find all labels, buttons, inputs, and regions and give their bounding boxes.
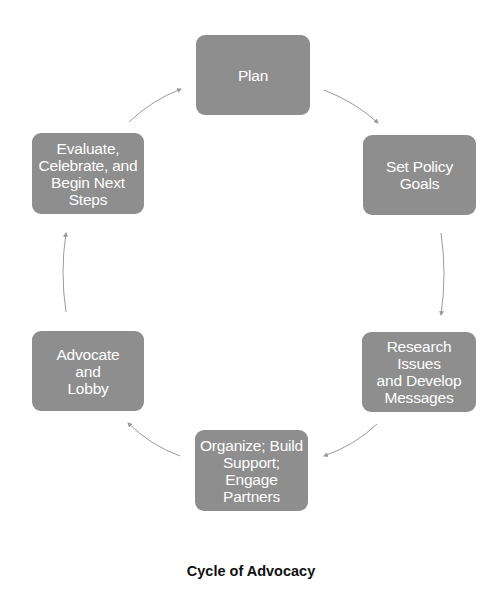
node-advocate: Advocate and Lobby — [32, 331, 144, 411]
arrow-plan-to-goals — [324, 90, 378, 123]
arrow-evaluate-to-plan — [129, 89, 181, 122]
arrow-advocate-to-evaluate — [63, 233, 66, 312]
node-set-policy-goals: Set Policy Goals — [363, 135, 476, 215]
node-evaluate: Evaluate, Celebrate, and Begin Next Step… — [32, 133, 144, 214]
diagram-caption: Cycle of Advocacy — [0, 563, 502, 579]
arrow-goals-to-research — [441, 233, 444, 315]
arrow-organize-to-advocate — [128, 423, 180, 456]
node-organize: Organize; Build Support; Engage Partners — [195, 430, 308, 511]
arrow-research-to-organize — [324, 424, 377, 456]
node-plan: Plan — [196, 35, 310, 115]
node-research: Research Issues and Develop Messages — [362, 332, 476, 412]
